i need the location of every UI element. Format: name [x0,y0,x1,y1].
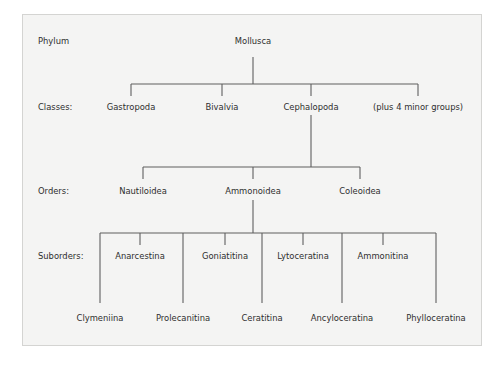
node-clymeniina: Clymeniina [77,313,124,323]
node-ammonitina: Ammonitina [358,251,409,261]
node-anarcestina: Anarcestina [115,251,165,261]
rank-label-orders: Orders: [38,186,69,196]
node-cephalopoda: Cephalopoda [283,102,338,112]
node-coleoidea: Coleoidea [339,186,381,196]
node-minor-groups: (plus 4 minor groups) [373,102,463,112]
node-ceratitina: Ceratitina [241,313,282,323]
node-lytoceratina: Lytoceratina [277,251,329,261]
node-mollusca: Mollusca [235,36,271,46]
rank-label-suborders: Suborders: [38,251,83,261]
tree-connectors [0,0,497,365]
node-prolecanitina: Prolecanitina [156,313,210,323]
node-goniatitina: Goniatitina [202,251,248,261]
node-ancyloceratina: Ancyloceratina [311,313,373,323]
node-nautiloidea: Nautiloidea [119,186,167,196]
node-ammonoidea: Ammonoidea [225,186,281,196]
node-bivalvia: Bivalvia [206,102,239,112]
rank-label-classes: Classes: [38,102,72,112]
rank-label-phylum: Phylum [38,36,69,46]
node-phylloceratina: Phylloceratina [406,313,465,323]
node-gastropoda: Gastropoda [107,102,156,112]
